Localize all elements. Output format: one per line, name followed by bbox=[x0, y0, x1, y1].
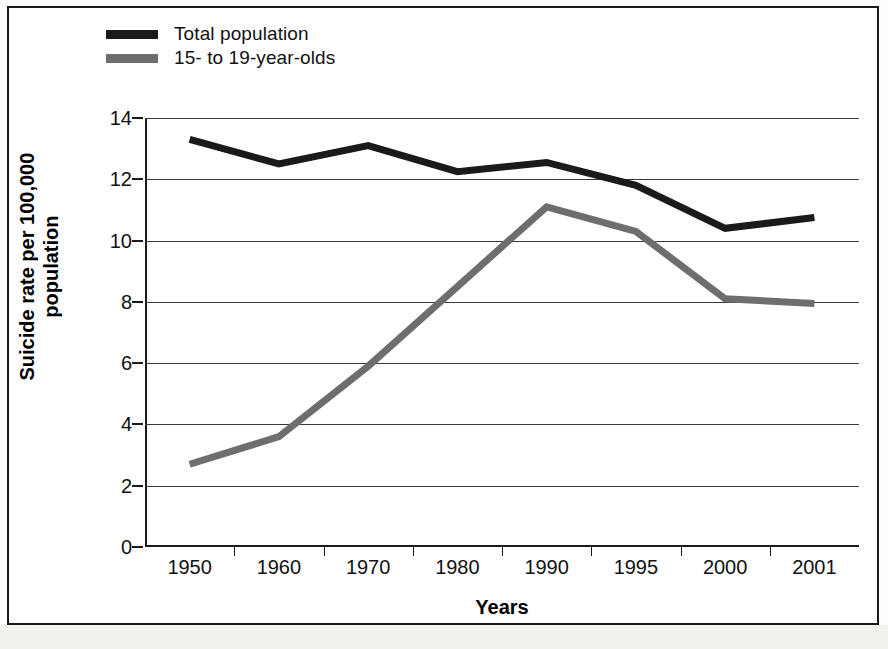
y-axis-title: Suicide rate per 100,000 population bbox=[16, 67, 63, 467]
x-tick-mark-2000 bbox=[681, 547, 682, 556]
x-tick-label-1990: 1990 bbox=[502, 556, 592, 579]
x-tick-label-2001: 2001 bbox=[769, 556, 859, 579]
y-tick-mark-0 bbox=[132, 546, 143, 548]
legend-label-teens: 15- to 19-year-olds bbox=[174, 47, 335, 69]
x-tick-mark-1995 bbox=[591, 547, 592, 556]
series-line-total-population bbox=[190, 139, 815, 228]
figure-container: Total population 15- to 19-year-olds 024… bbox=[0, 0, 888, 649]
legend-entry-teens: 15- to 19-year-olds bbox=[106, 46, 406, 70]
legend-swatch-teens bbox=[106, 54, 158, 63]
page-bleed bbox=[0, 625, 888, 649]
x-tick-mark-1960 bbox=[234, 547, 235, 556]
y-tick-mark-2 bbox=[132, 485, 143, 487]
y-axis-ticks: 02468101214 bbox=[80, 118, 132, 547]
legend-entry-total-population: Total population bbox=[106, 22, 406, 46]
y-tick-mark-4 bbox=[132, 423, 143, 425]
y-tick-label-0: 0 bbox=[88, 536, 132, 559]
x-axis-ticks: 19501960197019801990199520002001 bbox=[145, 556, 859, 586]
legend-label-total-population: Total population bbox=[174, 23, 309, 45]
y-tick-label-6: 6 bbox=[88, 352, 132, 375]
y-tick-mark-10 bbox=[132, 240, 143, 242]
chart-legend: Total population 15- to 19-year-olds bbox=[106, 22, 406, 70]
x-tick-label-1960: 1960 bbox=[234, 556, 324, 579]
x-tick-label-1970: 1970 bbox=[323, 556, 413, 579]
y-tick-label-8: 8 bbox=[88, 290, 132, 313]
x-tick-mark-1990 bbox=[502, 547, 503, 556]
y-tick-label-12: 12 bbox=[88, 168, 132, 191]
x-tick-mark-1970 bbox=[324, 547, 325, 556]
plot-area bbox=[145, 118, 859, 547]
y-axis-title-line2: population bbox=[40, 216, 62, 318]
x-tick-mark-1980 bbox=[413, 547, 414, 556]
series-line-15-to-19-year-olds bbox=[190, 207, 815, 464]
y-axis-title-line1: Suicide rate per 100,000 bbox=[16, 153, 38, 381]
x-tick-label-1980: 1980 bbox=[412, 556, 502, 579]
y-tick-label-4: 4 bbox=[88, 413, 132, 436]
x-tick-label-1995: 1995 bbox=[591, 556, 681, 579]
x-axis-title: Years bbox=[145, 596, 859, 619]
y-tick-mark-14 bbox=[132, 117, 143, 119]
y-tick-mark-12 bbox=[132, 178, 143, 180]
y-tick-label-10: 10 bbox=[88, 229, 132, 252]
x-tick-label-1950: 1950 bbox=[145, 556, 235, 579]
x-tick-mark-2001 bbox=[770, 547, 771, 556]
y-tick-label-2: 2 bbox=[88, 474, 132, 497]
legend-swatch-total-population bbox=[106, 30, 158, 39]
y-tick-label-14: 14 bbox=[88, 107, 132, 130]
x-tick-label-2000: 2000 bbox=[680, 556, 770, 579]
y-tick-mark-8 bbox=[132, 301, 143, 303]
y-tick-mark-6 bbox=[132, 362, 143, 364]
series-lines bbox=[145, 118, 859, 547]
